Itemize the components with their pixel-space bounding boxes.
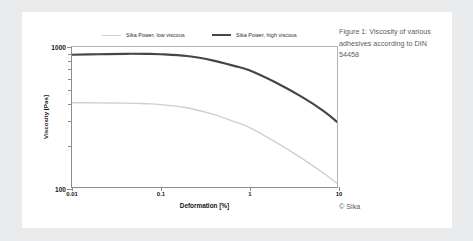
y-tick-major (67, 47, 72, 48)
x-axis-title: Deformation [%] (71, 202, 338, 209)
y-tick-label: 100 (55, 186, 66, 193)
y-tick-minor (68, 104, 72, 105)
y-tick-minor (68, 79, 72, 80)
x-tick-label: 10 (336, 191, 343, 197)
y-tick-minor (68, 61, 72, 62)
legend-label-high-viscous: Sika Power, high viscous (236, 32, 297, 38)
legend-swatch-icon (212, 34, 231, 36)
y-tick-minor (68, 146, 72, 147)
series-line-0 (72, 103, 337, 184)
legend-swatch-icon (102, 35, 121, 36)
chart-panel: Sika Power, low viscous Sika Power, high… (22, 20, 324, 220)
plot-area: 1000100 0.010.1110 (71, 46, 338, 188)
x-tick-label: 1 (248, 191, 251, 197)
copyright-notice: © Sika (339, 202, 360, 211)
chart-curves (72, 47, 337, 187)
y-tick-minor (68, 54, 72, 55)
y-tick-minor (68, 121, 72, 122)
y-axis-title: Viscosity [Pas] (40, 46, 52, 188)
legend-label-low-viscous: Sika Power, low viscous (126, 32, 185, 38)
figure-page: Sika Power, low viscous Sika Power, high… (22, 12, 452, 228)
y-tick-minor (68, 69, 72, 70)
x-tick-label: 0.1 (157, 191, 165, 197)
legend-item-high-viscous: Sika Power, high viscous (212, 28, 297, 42)
x-tick-label: 0.01 (66, 191, 78, 197)
figure-caption: Figure 1: Viscosity of various adhesives… (339, 26, 447, 61)
y-tick-minor (68, 90, 72, 91)
legend-item-low-viscous: Sika Power, low viscous (102, 28, 185, 42)
chart-legend: Sika Power, low viscous Sika Power, high… (48, 28, 320, 42)
y-tick-label: 1000 (51, 44, 66, 51)
